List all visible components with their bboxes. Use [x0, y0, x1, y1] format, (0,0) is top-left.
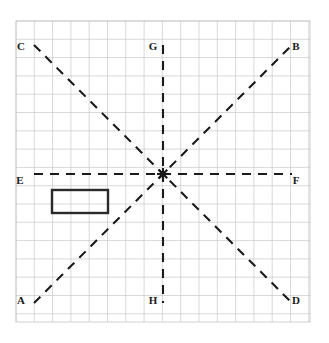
point-label-d: D — [292, 294, 300, 306]
shape-rectangle-layer — [52, 190, 108, 213]
point-label-e: E — [16, 174, 23, 186]
point-label-c: C — [17, 40, 25, 52]
shape-rectangle — [52, 190, 108, 213]
point-label-g: G — [149, 40, 158, 52]
point-label-h: H — [149, 294, 158, 306]
point-label-a: A — [17, 294, 25, 306]
center-point-dot — [161, 172, 165, 176]
point-labels-layer: ABCDEFGH — [16, 40, 300, 306]
diagram-canvas: ABCDEFGH — [0, 0, 329, 343]
point-label-b: B — [292, 40, 300, 52]
point-label-f: F — [293, 174, 300, 186]
figure-svg: ABCDEFGH — [0, 0, 329, 343]
center-intersection-marker — [157, 168, 169, 180]
